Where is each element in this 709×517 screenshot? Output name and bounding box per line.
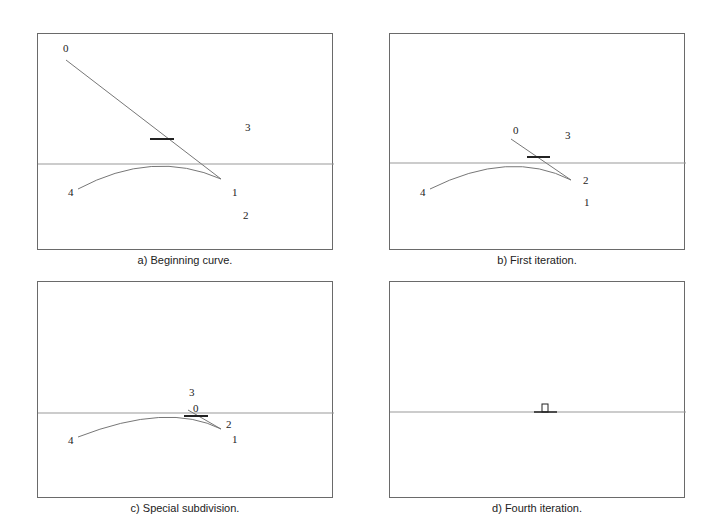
bezier-curve (78, 417, 221, 437)
point-label: 3 (565, 130, 571, 141)
point-label: 3 (245, 122, 251, 133)
control-polygon-line (66, 60, 221, 179)
panel-a-plot (38, 34, 334, 251)
panel-b-plot (390, 34, 686, 251)
point-label: 1 (232, 187, 238, 198)
panel-d-plot (390, 282, 686, 499)
point-label: 4 (68, 435, 74, 446)
caption-d: d) Fourth iteration. (389, 502, 685, 514)
tiny-control-box (542, 404, 548, 412)
control-polygon-line (511, 139, 571, 180)
point-label: 1 (232, 434, 238, 445)
bezier-curve (430, 166, 571, 189)
panel-c-special-subdivision: 3 0 2 4 1 (37, 281, 333, 498)
point-label: 2 (226, 419, 232, 430)
point-label: 4 (68, 187, 74, 198)
point-label: 3 (189, 387, 195, 398)
point-label: 0 (513, 125, 519, 136)
panel-d-fourth-iteration (389, 281, 685, 498)
panel-c-plot (38, 282, 334, 499)
point-label: 2 (583, 175, 589, 186)
point-label: 4 (420, 187, 426, 198)
point-label: 0 (193, 403, 199, 414)
point-label: 2 (243, 210, 249, 221)
panel-a-beginning-curve: 0 3 4 1 2 (37, 33, 333, 250)
caption-a: a) Beginning curve. (37, 254, 333, 266)
bezier-curve (78, 166, 221, 189)
point-label: 1 (584, 197, 590, 208)
caption-b: b) First iteration. (389, 254, 685, 266)
caption-c: c) Special subdivision. (37, 502, 333, 514)
panel-b-first-iteration: 0 3 2 4 1 (389, 33, 685, 250)
point-label: 0 (63, 43, 69, 54)
